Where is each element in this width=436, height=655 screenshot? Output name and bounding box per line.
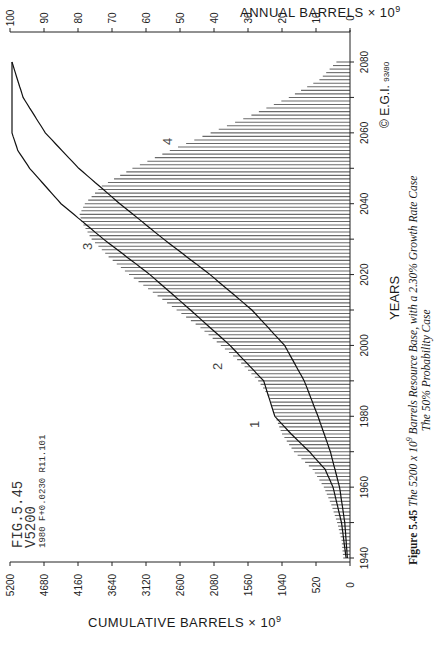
- annual-tick-label: 70: [107, 12, 118, 24]
- annual-tick-label: 100: [5, 9, 16, 26]
- cumulative-tick-label: 3120: [141, 573, 152, 596]
- cumulative-axis-title: CUMULATIVE BARRELS × 109: [88, 614, 281, 630]
- cumulative-tick-label: 5200: [5, 573, 16, 596]
- cumulative-tick-label: 1040: [277, 573, 288, 596]
- figure-id-block: FIG.5.45 V5200 1980 F+0.0230 R11.101: [12, 435, 49, 548]
- cumulative-tick-label: 3640: [107, 573, 118, 596]
- annual-axis-title: ANNUAL BARRELS × 109: [240, 4, 401, 20]
- year-tick-label: 2000: [359, 334, 370, 357]
- year-tick-label: 1980: [359, 405, 370, 428]
- cumulative-tick-label: 4160: [73, 573, 84, 596]
- curve-label-1: 1: [247, 421, 262, 428]
- annual-tick-label: 80: [73, 12, 84, 24]
- curve-label-4: 4: [160, 138, 175, 145]
- years-axis-title: YEARS: [387, 276, 402, 320]
- year-tick-label: 2060: [359, 121, 370, 144]
- annual-tick-label: 50: [175, 12, 186, 24]
- annual-tick-label: 90: [39, 12, 50, 24]
- fig-line-3: 1980 F+0.0230 R11.101: [38, 435, 49, 548]
- cumulative-tick-label: 2080: [209, 573, 220, 596]
- annual-tick-label: 60: [141, 12, 152, 24]
- year-tick-label: 2040: [359, 192, 370, 215]
- fig-line-2: V5200: [25, 435, 38, 548]
- copyright: © E.G.I. 93/80: [378, 62, 392, 128]
- cumulative-tick-label: 0: [345, 582, 356, 588]
- cumulative-tick-label: 2600: [175, 573, 186, 596]
- annual-tick-label: 40: [209, 12, 220, 24]
- axes: [10, 28, 354, 566]
- curve-label-2: 2: [210, 363, 225, 370]
- annual-bars: [80, 62, 350, 558]
- year-tick-label: 2080: [359, 50, 370, 73]
- curve-label-3: 3: [80, 243, 95, 250]
- cumulative-tick-label: 1560: [243, 573, 254, 596]
- chart-svg: 0102030405060708090100052010401560208026…: [0, 0, 436, 655]
- cumulative-tick-label: 4680: [39, 573, 50, 596]
- caption-line-1: Figure 5.45 The 5200 x 109 Barrels Resou…: [403, 176, 420, 565]
- year-tick-label: 1960: [359, 476, 370, 499]
- figure-caption: Figure 5.45 The 5200 x 109 Barrels Resou…: [403, 176, 433, 565]
- cumulative-tick-label: 520: [311, 576, 322, 593]
- year-tick-label: 2020: [359, 263, 370, 286]
- year-tick-label: 1940: [359, 546, 370, 569]
- caption-line-2: The 50% Probability Case: [420, 176, 433, 565]
